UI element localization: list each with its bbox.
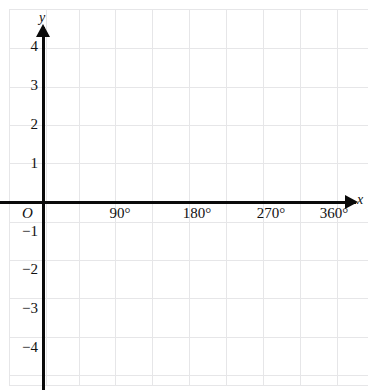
gridline-vertical — [263, 9, 264, 386]
gridline-horizontal — [9, 375, 368, 376]
origin-label: O — [22, 206, 33, 221]
gridline-vertical — [152, 9, 153, 386]
y-tick-label: −3 — [10, 301, 38, 316]
gridline-vertical — [9, 9, 10, 386]
x-tick-label: 90° — [90, 206, 150, 221]
gridline-horizontal — [9, 87, 368, 88]
y-tick-label: 4 — [10, 39, 38, 54]
grid-layer — [0, 0, 368, 390]
y-tick-label: −4 — [10, 340, 38, 355]
graph-figure: y x O 90°180°270°360° 4321−1−2−3−4 — [0, 0, 368, 390]
gridline-horizontal — [9, 163, 368, 164]
x-axis-label: x — [357, 193, 363, 207]
y-tick-label: 3 — [10, 78, 38, 93]
y-axis-arrow-icon — [36, 24, 50, 37]
y-tick-label: 2 — [10, 117, 38, 132]
gridline-horizontal — [9, 260, 368, 261]
gridline-vertical — [189, 9, 190, 386]
gridline-horizontal — [9, 9, 368, 10]
gridline-vertical — [226, 9, 227, 386]
x-tick-label: 180° — [167, 206, 227, 221]
gridline-horizontal — [9, 385, 368, 386]
x-tick-label: 360° — [304, 206, 364, 221]
y-tick-label: 1 — [10, 156, 38, 171]
x-tick-label: 270° — [241, 206, 301, 221]
gridline-horizontal — [9, 48, 368, 49]
y-axis-line — [42, 27, 45, 390]
gridline-horizontal — [9, 337, 368, 338]
gridline-vertical — [46, 9, 47, 386]
gridline-vertical — [79, 9, 80, 386]
y-tick-label: −1 — [10, 224, 38, 239]
x-axis-line — [0, 201, 356, 204]
gridline-vertical — [337, 9, 338, 386]
gridline-vertical — [115, 9, 116, 386]
gridline-horizontal — [9, 125, 368, 126]
gridline-horizontal — [9, 222, 368, 223]
y-tick-label: −2 — [10, 262, 38, 277]
y-axis-label: y — [39, 11, 45, 25]
gridline-horizontal — [9, 298, 368, 299]
gridline-vertical — [300, 9, 301, 386]
